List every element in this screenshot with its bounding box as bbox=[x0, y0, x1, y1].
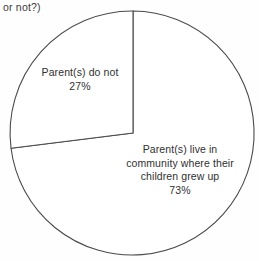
pie-label-do-not: Parent(s) do not 27% bbox=[26, 66, 134, 93]
pie-label-live-in-line2: community where their bbox=[113, 157, 247, 171]
pie-chart-graphic bbox=[0, 0, 259, 261]
pie-label-live-in-line1: Parent(s) live in bbox=[113, 143, 247, 157]
pie-label-live-in-line3: children grew up bbox=[113, 170, 247, 184]
pie-label-do-not-text: Parent(s) do not bbox=[26, 66, 134, 80]
pie-chart-figure: or not?) Parent(s) do not 27% Parent(s) … bbox=[0, 0, 259, 261]
pie-label-live-in-community: Parent(s) live in community where their … bbox=[113, 143, 247, 197]
pie-label-do-not-percent: 27% bbox=[26, 80, 134, 94]
pie-label-live-in-percent: 73% bbox=[113, 184, 247, 198]
